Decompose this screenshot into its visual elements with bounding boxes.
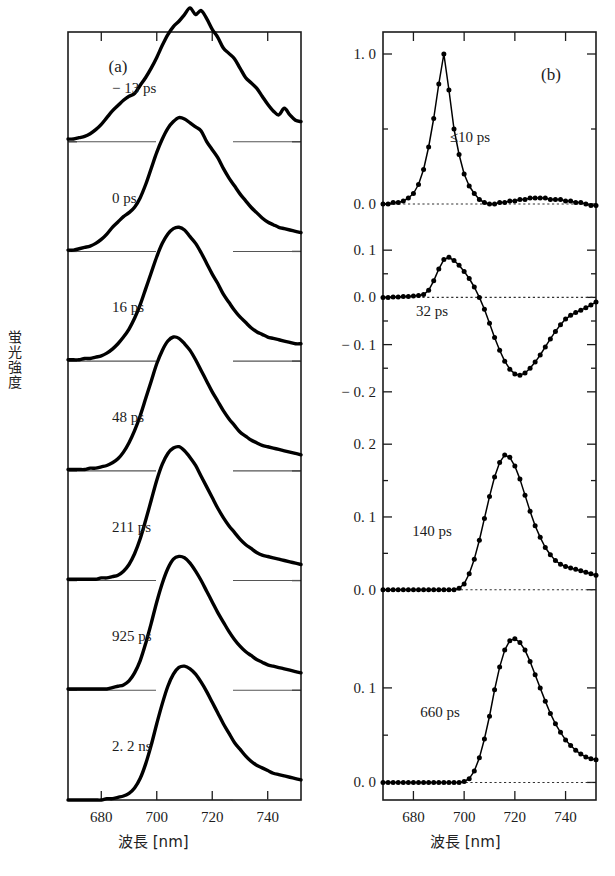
panel-b-trace <box>383 257 596 375</box>
panel-b-data-point <box>396 200 401 205</box>
panel-b-data-point <box>381 202 386 207</box>
panel-b-data-point <box>487 494 492 499</box>
panel-a-trace-label: 925 ps <box>112 628 152 644</box>
panel-b-ytick-label: 0. 2 <box>354 436 377 452</box>
panel-b-data-point <box>436 82 441 87</box>
panel-b-data-point <box>528 659 533 664</box>
panel-b-data-point <box>482 736 487 741</box>
panel-a-xtick-label: 720 <box>201 809 224 825</box>
panel-b-ytick-label: 0. 0 <box>354 196 377 212</box>
panel-b-data-point <box>406 294 411 299</box>
panel-b-data-point <box>396 780 401 785</box>
panel-b-data-point <box>578 752 583 757</box>
panel-b-data-point <box>538 353 543 358</box>
panel-b-data-point <box>548 336 553 341</box>
panel-b-data-point <box>578 200 583 205</box>
panel-b-data-point <box>502 200 507 205</box>
panel-b-data-point <box>421 167 426 172</box>
panel-b-trace <box>383 639 596 783</box>
panel-b-data-point <box>548 711 553 716</box>
panel-b-data-point <box>563 317 568 322</box>
panel-b-data-point <box>538 196 543 201</box>
panel-a-trace-label: 16 ps <box>112 299 144 315</box>
panel-b-data-point <box>386 295 391 300</box>
panel-b-data-point <box>563 564 568 569</box>
panel-b-data-point <box>573 748 578 753</box>
panel-b-data-point <box>401 294 406 299</box>
panel-b-data-point <box>421 587 426 592</box>
panel-b-data-point <box>482 200 487 205</box>
panel-b-data-point <box>507 638 512 643</box>
panel-a-trace-label: 2. 2 ns <box>112 738 152 754</box>
panel-b-data-point <box>477 755 482 760</box>
panel-b-data-point <box>441 780 446 785</box>
panel-b-data-point <box>401 199 406 204</box>
panel-b-data-point <box>543 699 548 704</box>
panel-b-data-point <box>563 737 568 742</box>
panel-b-data-point <box>583 305 588 310</box>
panel-b-data-point <box>553 329 558 334</box>
panel-b-data-point <box>553 197 558 202</box>
panel-b-trace-label: 32 ps <box>416 303 448 319</box>
panel-b-ytick-label: 0. 1 <box>354 680 377 696</box>
panel-b-ytick-label: 0. 0 <box>354 774 377 790</box>
panel-b-data-point <box>411 191 416 196</box>
panel-a-trace <box>68 666 301 800</box>
panel-b-ytick-label: 1. 0 <box>354 46 377 62</box>
panel-b-data-point <box>457 263 462 268</box>
panel-b-data-point <box>512 371 517 376</box>
panel-b-data-point <box>492 687 497 692</box>
panel-b-data-point <box>411 780 416 785</box>
panel-a-xtick-label: 740 <box>256 809 279 825</box>
panel-b-data-point <box>523 648 528 653</box>
panel-b-data-point <box>416 780 421 785</box>
panel-b-data-point <box>416 182 421 187</box>
spectra-figure: 680700720740(a)− 13 ps0 ps16 ps48 ps211 … <box>0 0 615 876</box>
panel-b-data-point <box>583 754 588 759</box>
panel-b-data-point <box>446 255 451 260</box>
panel-b-data-point <box>477 538 482 543</box>
panel-b-data-point <box>538 535 543 540</box>
panel-b-data-point <box>457 780 462 785</box>
panel-b-data-point <box>548 197 553 202</box>
panel-b-data-point <box>523 493 528 498</box>
panel-b-data-point <box>497 460 502 465</box>
panel-b-data-point <box>517 640 522 645</box>
panel-b-data-point <box>401 780 406 785</box>
panel-b-ytick-label: 0. 1 <box>354 509 377 525</box>
panel-b-data-point <box>446 587 451 592</box>
panel-b-xtick-label: 680 <box>402 809 425 825</box>
panel-b-data-point <box>472 769 477 774</box>
panel-b-data-point <box>416 293 421 298</box>
panel-b-data-point <box>386 587 391 592</box>
panel-b-data-point <box>528 366 533 371</box>
panel-b-data-point <box>523 197 528 202</box>
panel-b-data-point <box>543 196 548 201</box>
panel-b-ytick-label: 0. 0 <box>354 582 377 598</box>
panel-b-data-point <box>538 685 543 690</box>
panel-b-data-point <box>411 587 416 592</box>
panel-b-data-point <box>568 565 573 570</box>
panel-b-data-point <box>406 196 411 201</box>
panel-b-data-point <box>391 587 396 592</box>
panel-b-data-point <box>386 780 391 785</box>
panel-b-data-point <box>487 202 492 207</box>
y-axis-label: 蛍光強度 <box>6 330 24 390</box>
panel-b-data-point <box>517 197 522 202</box>
panel-b-data-point <box>507 455 512 460</box>
panel-b-data-point <box>472 557 477 562</box>
panel-b-data-point <box>462 269 467 274</box>
panel-b-data-point <box>497 348 502 353</box>
panel-b-data-point <box>482 307 487 312</box>
panel-b-data-point <box>467 571 472 576</box>
panel-b-data-point <box>573 200 578 205</box>
panel-b-data-point <box>391 294 396 299</box>
panel-b-data-point <box>452 780 457 785</box>
panel-b-data-point <box>441 587 446 592</box>
panel-b-data-point <box>381 295 386 300</box>
panel-b-data-point <box>452 587 457 592</box>
panel-b-data-point <box>588 756 593 761</box>
panel-b-data-point <box>523 370 528 375</box>
panel-b-data-point <box>553 558 558 563</box>
panel-b-data-point <box>457 586 462 591</box>
